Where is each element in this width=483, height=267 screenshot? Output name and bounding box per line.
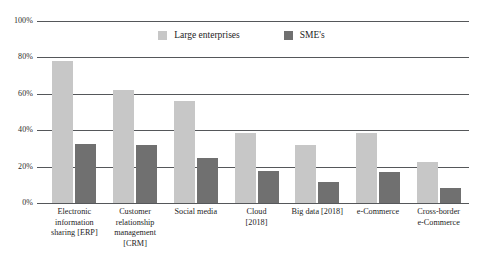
bar-group [235,21,279,203]
bar[interactable] [440,188,461,203]
y-tick-label-100: 100% [0,17,33,25]
bar[interactable] [356,133,377,203]
bar[interactable] [197,158,218,203]
x-axis-label-line: relationship [99,218,172,229]
bar[interactable] [417,162,438,203]
y-tick-label-60: 60% [0,90,33,98]
x-axis: Electronicinformationsharing [ERP]Custom… [44,207,469,265]
bar-group [356,21,400,203]
bar[interactable] [379,172,400,203]
bar-group [113,21,157,203]
y-tick-label-0: 0% [0,199,33,207]
y-tick-mark-40 [37,130,44,131]
bar-group [52,21,96,203]
bar-group [174,21,218,203]
legend-label-sme: SME's [300,31,325,41]
bar-chart: 0%20%40%60%80%100% Large enterprises SME… [0,0,483,267]
bar[interactable] [318,182,339,203]
gridline-0 [44,203,469,204]
x-axis-label-line: e-Commerce [402,218,475,229]
chart-legend: Large enterprises SME's [0,31,483,41]
x-axis-label-line: Cross-border [402,207,475,218]
x-axis-label-line: management [99,228,172,239]
plot-area [44,21,469,203]
bar-group [417,21,461,203]
y-tick-mark-100 [37,21,44,22]
y-tick-mark-0 [37,203,44,204]
bar[interactable] [258,171,279,203]
y-tick-label-20: 20% [0,163,33,171]
legend-item-large-enterprises[interactable]: Large enterprises [158,31,240,41]
bar[interactable] [136,145,157,203]
legend-swatch-icon-sme [284,31,293,40]
y-tick-mark-20 [37,167,44,168]
y-tick-label-40: 40% [0,126,33,134]
x-axis-label-line: [CRM] [99,239,172,250]
legend-item-sme[interactable]: SME's [284,31,325,41]
y-tick-mark-80 [37,57,44,58]
bar[interactable] [174,101,195,203]
y-tick-mark-60 [37,94,44,95]
legend-swatch-icon-large-enterprises [158,31,167,40]
bar[interactable] [113,90,134,203]
bar[interactable] [75,144,96,203]
bar[interactable] [295,145,316,203]
x-axis-label-line: [2018] [220,218,293,229]
legend-label-large-enterprises: Large enterprises [174,31,240,41]
bar-group [295,21,339,203]
bar[interactable] [52,61,73,203]
x-axis-label: Cross-bordere-Commerce [402,207,475,228]
y-tick-label-80: 80% [0,53,33,61]
bar[interactable] [235,133,256,203]
